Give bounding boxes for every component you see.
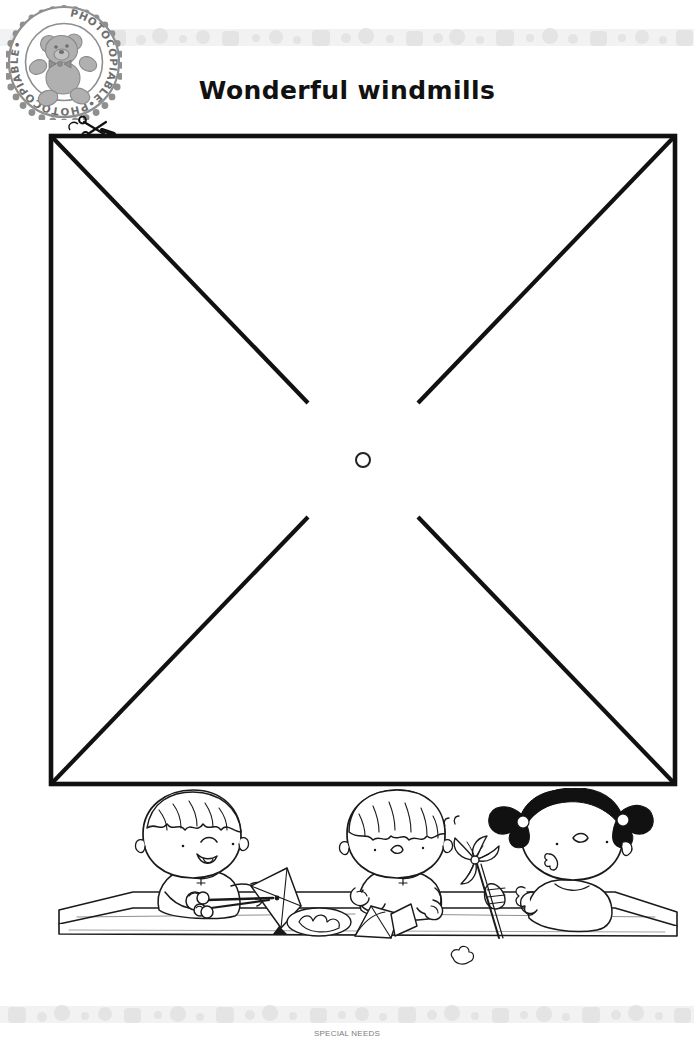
decorative-band-bottom [0, 1003, 694, 1027]
paper-scraps [287, 908, 351, 936]
motion-marks [444, 816, 459, 826]
hair-tie-left [517, 816, 529, 828]
page-title: Wonderful windmills [0, 76, 694, 105]
illustration-children-making-pinwheels [55, 788, 680, 1002]
hair-tie-right [617, 814, 629, 826]
center-pin-hole-marker [356, 453, 370, 467]
child-folding [340, 790, 453, 920]
drawing-pin-icon [275, 896, 280, 901]
worksheet-page: PHOTOCOPIABLE•PHOTOCOPIABLE• [0, 0, 694, 1037]
small-paper-scrap [451, 946, 473, 964]
windmill-template [44, 104, 682, 796]
footer-text: SPECIAL NEEDS [0, 1029, 694, 1037]
cut-line-squiggle [69, 122, 78, 130]
